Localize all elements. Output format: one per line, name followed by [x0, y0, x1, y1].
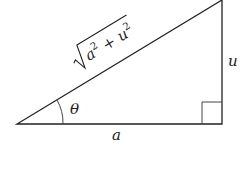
opposite-label: u [228, 52, 238, 70]
angle-arc [57, 100, 63, 124]
adjacent-label: a [112, 126, 121, 144]
right-angle-marker [202, 102, 222, 124]
triangle-diagram: θ a u a2 + u2 [0, 0, 251, 171]
hypotenuse-label: a2 + u2 [67, 15, 139, 72]
angle-label: θ [70, 100, 79, 118]
svg-text:a2 + u2: a2 + u2 [81, 20, 137, 65]
